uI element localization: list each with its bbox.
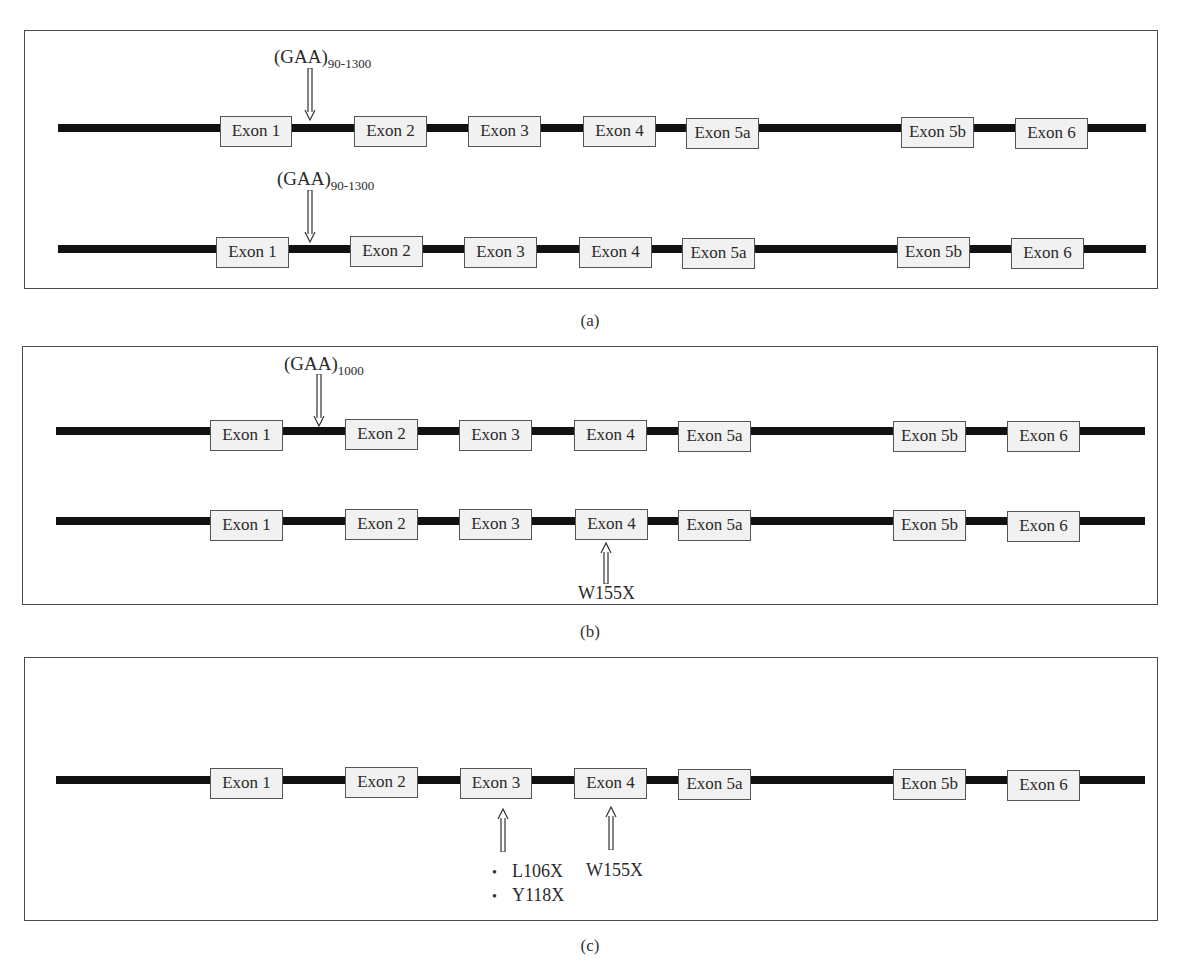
exon-box: Exon 5a [678,510,751,541]
exon-box: Exon 2 [345,419,418,450]
exon-box: Exon 5a [686,118,759,149]
repeat-label: (GAA)90-1300 [277,168,374,194]
panel-caption: (b) [560,622,620,642]
arrow-down-icon [313,374,325,428]
arrow-down-icon [304,68,316,122]
exon-box: Exon 5a [678,769,751,800]
exon-box: Exon 1 [210,768,283,799]
mutation-label: Y118X [492,884,564,908]
panel-caption: (c) [560,936,620,956]
arrow-up-icon [600,542,612,584]
exon-box: Exon 3 [468,116,541,147]
arrow-up-icon [605,806,617,850]
exon-box: Exon 1 [216,237,289,268]
exon-box: Exon 6 [1007,511,1080,542]
exon-box: Exon 5b [893,510,966,541]
arrow-down-icon [304,190,316,244]
panel-b [22,346,1158,605]
exon-box: Exon 2 [345,509,418,540]
exon-box: Exon 1 [210,510,283,541]
exon-box: Exon 2 [354,116,427,147]
exon-box: Exon 5a [678,421,751,452]
exon-box: Exon 1 [220,116,292,147]
exon-box: Exon 3 [460,768,532,799]
mutation-label: W155X [586,860,643,881]
arrow-up-icon [497,808,509,852]
repeat-label: (GAA)90-1300 [274,46,371,72]
exon-box: Exon 3 [464,237,537,268]
exon-box: Exon 6 [1007,770,1080,801]
exon-box: Exon 2 [345,767,418,798]
exon-box: Exon 4 [574,768,647,799]
exon-box: Exon 5b [897,237,970,268]
panel-caption: (a) [560,311,620,331]
exon-box: Exon 3 [459,420,532,451]
mutation-list: L106X Y118X [492,860,564,908]
exon-box: Exon 4 [583,116,656,147]
mutation-label: W155X [578,583,635,604]
exon-box: Exon 5b [893,421,966,452]
exon-box: Exon 4 [579,237,652,268]
exon-box: Exon 5a [682,238,755,269]
exon-box: Exon 6 [1015,118,1088,149]
exon-box: Exon 4 [574,420,647,451]
exon-box: Exon 5b [901,117,974,148]
exon-box: Exon 6 [1011,238,1084,269]
exon-box: Exon 5b [893,769,966,800]
exon-box: Exon 2 [350,236,423,267]
mutation-label: L106X [492,860,564,884]
exon-box: Exon 4 [575,509,648,540]
exon-box: Exon 1 [210,420,283,451]
exon-box: Exon 6 [1007,421,1080,452]
exon-box: Exon 3 [459,509,532,540]
